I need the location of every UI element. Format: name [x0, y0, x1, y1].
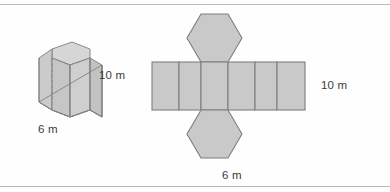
net-bottom-hexagon: [187, 110, 242, 158]
net-base-label: 6 m: [222, 170, 242, 182]
net-rectangle-3: [201, 62, 228, 110]
net-rectangle-6: [277, 62, 305, 110]
prism-front-right-face: [70, 58, 90, 117]
bottom-divider-rule: [0, 186, 390, 187]
net-rectangle-1: [152, 62, 179, 110]
prism-front-left-face: [52, 58, 70, 117]
hexagonal-prism-figure: [28, 36, 108, 132]
net-rectangle-2: [179, 62, 201, 110]
net-rectangle-band: [152, 62, 305, 110]
prism-right-face: [90, 58, 102, 117]
net-height-label: 10 m: [321, 80, 347, 92]
net-top-hexagon: [187, 14, 242, 62]
prism-net-figure: [144, 8, 324, 168]
prism-base-label: 6 m: [38, 124, 58, 136]
prism-height-label: 10 m: [99, 70, 125, 82]
net-rectangle-5: [255, 62, 277, 110]
top-divider-rule: [0, 4, 390, 5]
figure-canvas: 10 m 6 m 10 m 6 m: [0, 0, 390, 192]
net-rectangle-4: [228, 62, 255, 110]
